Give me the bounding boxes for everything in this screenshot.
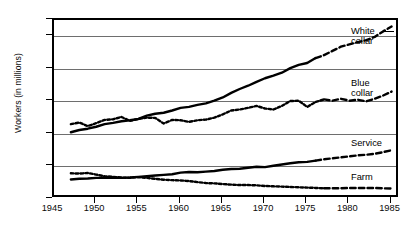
x-tick-label: 1955	[113, 203, 159, 213]
x-tick-label: 1980	[324, 203, 370, 213]
series-layer	[54, 20, 400, 199]
series-label-service: Service	[351, 138, 382, 148]
x-tick-label: 1960	[156, 203, 202, 213]
x-tick-label: 1950	[71, 203, 117, 213]
x-tick-label: 1965	[198, 203, 244, 213]
plot-area: White collarBlue collarServiceFarm	[52, 18, 398, 197]
series-line-farm	[71, 173, 324, 188]
series-label-blue-collar: Blue collar	[351, 78, 373, 99]
x-tick-label: 1975	[282, 203, 328, 213]
x-tick-label: 1945	[29, 203, 75, 213]
chart-figure: Workers (in millions) 0102030405055 1945…	[0, 0, 415, 229]
y-tick-mark	[46, 197, 52, 198]
series-line-service-projected	[316, 150, 392, 160]
series-line-farm-projected	[324, 188, 392, 189]
series-label-farm: Farm	[351, 172, 373, 182]
x-tick-label: 1970	[240, 203, 286, 213]
x-tick-label: 1985	[367, 203, 413, 213]
series-line-blue-collar	[71, 99, 324, 126]
label-leader-line	[384, 31, 394, 32]
series-label-white-collar: White collar	[351, 26, 375, 47]
y-axis-title: Workers (in millions)	[13, 28, 23, 158]
